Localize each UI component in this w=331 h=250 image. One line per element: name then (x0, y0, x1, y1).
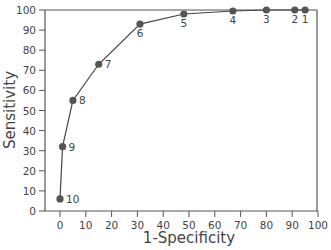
x-tick-label: 0 (57, 219, 64, 231)
data-point-marker (56, 195, 63, 202)
x-tick-label: 80 (260, 219, 273, 231)
y-tick-label: 70 (23, 64, 36, 76)
roc-chart: 0102030405060708090100010203040506070809… (0, 0, 331, 250)
y-axis-label: Sensitivity (1, 71, 19, 149)
data-point-marker (59, 143, 66, 150)
data-point-label: 6 (137, 27, 144, 39)
data-point-label: 3 (263, 13, 270, 25)
x-tick-label: 90 (286, 219, 299, 231)
data-point-label: 5 (180, 17, 187, 29)
y-tick-label: 30 (23, 145, 36, 157)
x-tick-label: 70 (234, 219, 247, 231)
data-point-label: 9 (69, 141, 76, 153)
data-point-marker (69, 97, 76, 104)
y-tick-label: 80 (23, 44, 36, 56)
data-point-label: 7 (105, 58, 112, 70)
y-tick-label: 40 (23, 125, 36, 137)
x-tick-label: 10 (79, 219, 92, 231)
data-point-marker (95, 61, 102, 68)
y-tick-label: 60 (23, 84, 36, 96)
data-point-label: 4 (230, 14, 237, 26)
y-tick-label: 0 (29, 205, 36, 217)
y-tick-label: 10 (23, 185, 36, 197)
x-tick-label: 100 (308, 219, 328, 231)
x-axis-label: 1-Specificity (143, 229, 235, 247)
y-tick-label: 100 (16, 4, 36, 16)
axes (39, 10, 318, 217)
chart-canvas: 0102030405060708090100010203040506070809… (0, 0, 331, 250)
data-point-label: 10 (66, 193, 79, 205)
y-tick-label: 20 (23, 165, 36, 177)
data-point-label: 1 (302, 13, 309, 25)
point-labels: 10987654321 (66, 13, 308, 205)
data-point-label: 2 (291, 13, 298, 25)
series-roc-curve (56, 6, 308, 202)
data-point-label: 8 (79, 94, 86, 106)
x-tick-label: 20 (105, 219, 118, 231)
roc-line (60, 10, 305, 199)
y-tick-label: 50 (23, 105, 36, 117)
y-tick-label: 90 (23, 24, 36, 36)
